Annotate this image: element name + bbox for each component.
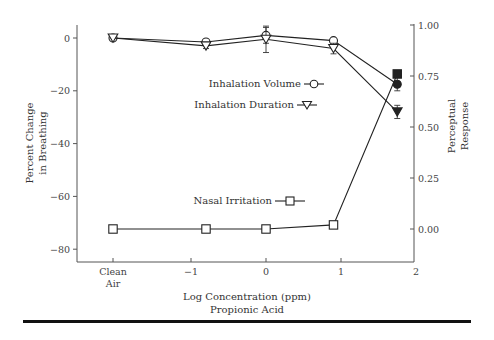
- series-nasal-irritation: [109, 70, 402, 233]
- y-right-tick-label: 0.75: [418, 71, 439, 82]
- x-tick-label: −1: [184, 266, 198, 277]
- x-tick-label: 0: [263, 266, 269, 277]
- y-left-tick-label: −40: [50, 138, 70, 149]
- legend: Inhalation Volume Inhalation Duration Na…: [193, 78, 324, 206]
- right-axis: 1.000.750.500.250.00: [410, 20, 439, 263]
- svg-text:Inhalation Volume: Inhalation Volume: [209, 78, 301, 89]
- y-left-axis-title: Percent Change in Breathing: [24, 102, 48, 183]
- y-right-tick-label: 0.25: [418, 173, 439, 184]
- y-right-tick-label: 0.00: [418, 224, 439, 235]
- legend-item-inhalation-duration: Inhalation Duration: [194, 99, 317, 110]
- y-right-tick-label: 1.00: [418, 20, 439, 31]
- square-marker-icon: [202, 225, 210, 233]
- svg-text:Response: Response: [459, 102, 470, 151]
- square-marker-icon: [286, 197, 294, 205]
- y-right-axis-title: Perceptual Response: [446, 99, 470, 154]
- square-marker-icon: [329, 221, 337, 229]
- svg-text:Log Concentration (ppm): Log Concentration (ppm): [183, 291, 311, 302]
- x-tick-label: 2: [413, 266, 419, 277]
- bottom-rule-divider: [23, 320, 471, 323]
- x-axis-title: Log Concentration (ppm) Propionic Acid: [183, 291, 311, 315]
- legend-item-nasal-irritation: Nasal Irritation: [193, 195, 305, 206]
- legend-item-inhalation-volume: Inhalation Volume: [209, 78, 324, 89]
- y-left-tick-label: −60: [50, 191, 70, 202]
- chart: 0−20−40−60−80 1.000.750.500.250.00 Clean…: [0, 0, 494, 340]
- x-axis: CleanAir−1012: [77, 258, 419, 289]
- svg-text:Percent Change: Percent Change: [24, 102, 35, 183]
- svg-text:Inhalation Duration: Inhalation Duration: [194, 99, 294, 110]
- left-axis: 0−20−40−60−80: [50, 25, 77, 262]
- triangle-down-marker-icon: [392, 108, 402, 116]
- y-left-tick-label: −20: [50, 85, 70, 96]
- y-right-tick-label: 0.50: [418, 122, 439, 133]
- x-tick-label: Air: [105, 278, 121, 289]
- svg-text:Perceptual: Perceptual: [446, 99, 457, 154]
- svg-text:in Breathing: in Breathing: [37, 111, 48, 175]
- svg-text:Propionic Acid: Propionic Acid: [210, 304, 285, 315]
- square-marker-icon: [262, 225, 270, 233]
- x-tick-label: 1: [338, 266, 344, 277]
- square-marker-icon: [109, 225, 117, 233]
- svg-text:Nasal Irritation: Nasal Irritation: [193, 195, 272, 206]
- square-marker-icon: [393, 70, 401, 78]
- circle-marker-icon: [310, 80, 318, 88]
- x-tick-label: Clean: [99, 266, 127, 277]
- y-left-tick-label: −80: [50, 244, 70, 255]
- y-left-tick-label: 0: [64, 33, 70, 44]
